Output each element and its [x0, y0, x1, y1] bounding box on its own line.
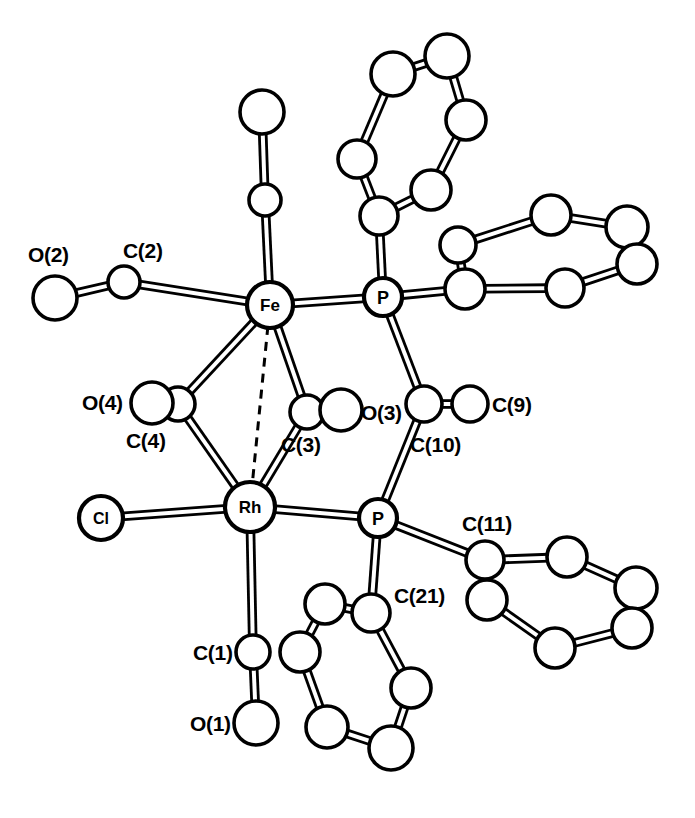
- atom-RD2: [280, 632, 320, 672]
- bond-RB2-RB3: [472, 217, 535, 243]
- atom-RD1: [305, 584, 345, 624]
- atom-sphere-RA6: [411, 170, 451, 210]
- bond-RC5-RC1: [500, 608, 543, 641]
- atom-RC4: [612, 608, 652, 648]
- atom-sphere-RC1: [467, 580, 507, 620]
- atom-C11: [466, 541, 504, 579]
- atom-RD5: [391, 668, 431, 708]
- bond-Rh-Cl: [121, 505, 228, 520]
- atom-sphere-RB6: [546, 269, 584, 307]
- atom-RB3: [531, 195, 571, 235]
- atom-sphere-O1: [234, 701, 278, 745]
- ann-O4: O(4): [82, 391, 123, 414]
- atom-RB5: [617, 244, 657, 284]
- atom-RA4: [425, 34, 469, 78]
- atom-label-P1: P: [377, 288, 389, 308]
- atom-sphere-RA4: [425, 34, 469, 78]
- atom-sphere-RB5: [617, 244, 657, 284]
- atom-RC2: [547, 537, 587, 577]
- atom-RA2: [338, 140, 376, 178]
- ann-C2: C(2): [123, 239, 163, 262]
- atom-sphere-C9: [452, 386, 488, 422]
- atom-sphere-RD3: [306, 706, 348, 748]
- ann-C4: C(4): [126, 429, 166, 452]
- atom-sphere-RC4: [612, 608, 652, 648]
- bond-RC4-RC5: [572, 629, 616, 647]
- atom-sphere-C10: [406, 386, 442, 422]
- ann-C9: C(9): [492, 393, 532, 416]
- atom-sphere-O5: [240, 90, 284, 134]
- bond-RB3-RB4: [568, 214, 609, 227]
- atom-P1: P: [364, 278, 402, 316]
- bond-Rh-C4: [184, 414, 240, 490]
- bond-RA2-RA3: [360, 91, 388, 145]
- atom-P2: P: [359, 499, 397, 537]
- atom-sphere-C11: [466, 541, 504, 579]
- ann-C3: C(3): [281, 433, 321, 456]
- atom-C5: [249, 184, 281, 216]
- bond-Rh-P2: [273, 506, 362, 520]
- atom-C21: [352, 594, 390, 632]
- atom-sphere-RC2: [547, 537, 587, 577]
- atom-sphere-RD5: [391, 668, 431, 708]
- bond-Fe-C4: [186, 318, 258, 395]
- bond-RB5-RB6: [580, 266, 621, 285]
- atom-sphere-RB3: [531, 195, 571, 235]
- atom-RA1: [360, 197, 398, 235]
- bond-C1-O1: [250, 667, 258, 703]
- atom-label-Rh: Rh: [239, 498, 262, 517]
- atom-sphere-C21: [352, 594, 390, 632]
- bond-Fe-Rh: [252, 326, 268, 484]
- atom-C9: [452, 386, 488, 422]
- atom-sphere-RB4: [606, 206, 648, 248]
- bond-C21-RD5: [376, 626, 406, 673]
- bond-C11-RC2: [502, 554, 549, 563]
- atom-layer: FeRhPPCl: [33, 34, 657, 770]
- figure-canvas: FeRhPPCl O(2)C(2)O(4)C(4)C(3)O(3)C(9)C(1…: [0, 0, 695, 818]
- bond-Fe-C2: [137, 281, 249, 305]
- atom-C1: [236, 635, 270, 669]
- atom-O1: [234, 701, 278, 745]
- atom-RC1: [467, 580, 507, 620]
- atom-sphere-O2: [33, 276, 77, 320]
- bond-Fe-C5: [262, 214, 272, 284]
- ann-C10: C(10): [410, 433, 461, 456]
- atom-sphere-RC5: [535, 628, 575, 668]
- atom-sphere-O3: [320, 389, 362, 431]
- atom-Cl: Cl: [79, 496, 123, 540]
- atom-sphere-C1: [236, 635, 270, 669]
- bond-RD2-RD3: [303, 668, 324, 710]
- ann-O2: O(2): [28, 243, 69, 266]
- atom-C2: [108, 266, 140, 298]
- bond-RB6-RB1: [483, 285, 548, 292]
- atom-RA3: [371, 52, 415, 96]
- atom-sphere-RB2: [440, 227, 476, 263]
- ann-C21: C(21): [394, 584, 445, 607]
- atom-label-Fe: Fe: [260, 296, 280, 315]
- bond-RC2-RC3: [582, 561, 620, 583]
- atom-C10: [406, 386, 442, 422]
- atom-sphere-RA5: [446, 100, 486, 140]
- atom-RB6: [546, 269, 584, 307]
- atom-sphere-RC3: [615, 567, 657, 609]
- atom-sphere-RB1: [445, 269, 485, 309]
- atom-RA5: [446, 100, 486, 140]
- atom-RC3: [615, 567, 657, 609]
- atom-O4: [131, 382, 173, 424]
- atom-label-Cl: Cl: [93, 510, 109, 527]
- atom-O2: [33, 276, 77, 320]
- ann-O3: O(3): [361, 401, 402, 424]
- bond-P2-C21: [369, 535, 380, 597]
- atom-sphere-RA1: [360, 197, 398, 235]
- atom-RB4: [606, 206, 648, 248]
- atom-O3: [320, 389, 362, 431]
- molecular-structure-diagram: FeRhPPCl O(2)C(2)O(4)C(4)C(3)O(3)C(9)C(1…: [0, 0, 695, 818]
- bond-Rh-C1: [247, 530, 256, 637]
- atom-RB1: [445, 269, 485, 309]
- bond-P1-RA1: [376, 233, 385, 280]
- atom-label-P2: P: [372, 509, 384, 529]
- atom-RA6: [411, 170, 451, 210]
- atom-sphere-C5: [249, 184, 281, 216]
- bond-P1-C10: [386, 312, 422, 391]
- bond-RA5-RA6: [436, 135, 461, 176]
